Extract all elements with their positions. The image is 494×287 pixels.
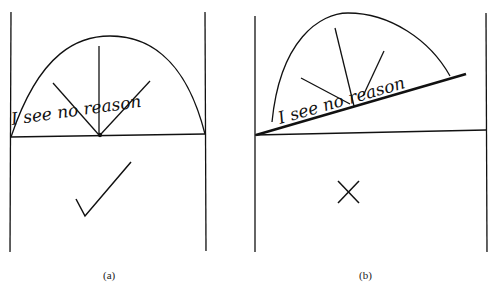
panel-b-label: (b) — [359, 269, 372, 281]
panel-a-label: (a) — [103, 269, 115, 281]
handwriting-text: I see no reason — [9, 91, 143, 129]
diagram: I see no reason I see no reason — [0, 0, 494, 287]
right-margin-line — [205, 12, 206, 251]
check-icon — [76, 162, 131, 216]
handwriting-text: I see no reason — [275, 72, 408, 128]
cross-icon — [338, 181, 359, 203]
panel-b: I see no reason — [255, 13, 487, 252]
baseline — [10, 134, 205, 137]
left-margin-line — [10, 12, 11, 252]
panel-a: I see no reason — [9, 12, 206, 252]
baseline — [255, 130, 486, 135]
origin-dot — [99, 134, 102, 137]
right-margin-line — [486, 13, 487, 252]
